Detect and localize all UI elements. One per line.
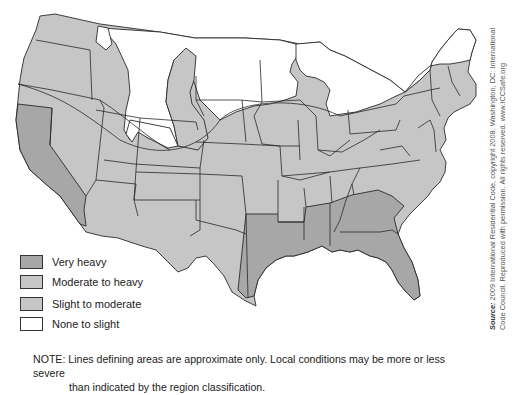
legend-item-slight-to-moderate: Slight to moderate xyxy=(20,296,143,312)
legend-label: Moderate to heavy xyxy=(52,276,143,288)
source-label: Source: xyxy=(488,302,497,330)
legend-swatch-slight-to-moderate xyxy=(20,297,43,311)
legend-label: Very heavy xyxy=(52,256,106,268)
source-line-1: 2009 International Residential Code, cop… xyxy=(488,28,497,301)
legend-item-moderate-to-heavy: Moderate to heavy xyxy=(20,274,143,290)
legend-swatch-moderate-to-heavy xyxy=(20,275,43,289)
source-credit: Source: 2009 International Residential C… xyxy=(488,50,508,330)
legend-label: None to slight xyxy=(52,318,119,330)
map-note: NOTE: Lines defining areas are approxima… xyxy=(33,352,473,394)
note-line-2: than indicated by the region classificat… xyxy=(33,380,473,394)
note-line-1: NOTE: Lines defining areas are approxima… xyxy=(33,353,445,379)
source-line-2: Code Council. Reproduced with permission… xyxy=(498,63,507,330)
legend-item-very-heavy: Very heavy xyxy=(20,254,143,270)
legend-label: Slight to moderate xyxy=(52,298,141,310)
legend-swatch-very-heavy xyxy=(20,255,43,269)
legend-item-none-to-slight: None to slight xyxy=(20,316,143,332)
legend-swatch-none-to-slight xyxy=(20,317,43,331)
legend: Very heavy Moderate to heavy Slight to m… xyxy=(20,254,143,336)
